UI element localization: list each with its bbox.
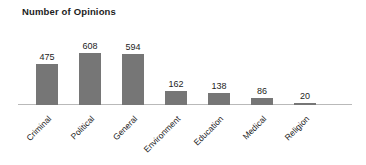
bar[interactable] — [165, 91, 187, 105]
bar[interactable] — [36, 64, 58, 105]
bar-value-label: 594 — [109, 42, 157, 52]
bar[interactable] — [122, 54, 144, 105]
bar-value-label: 608 — [66, 41, 114, 51]
bar-value-label: 475 — [23, 52, 71, 62]
plot-area: 475 Criminal 608 Political 594 General 1… — [0, 0, 366, 165]
x-tick-label-text: Political — [69, 113, 97, 141]
x-tick-label-text: General — [111, 113, 140, 142]
x-tick-label-text: Environment — [142, 113, 184, 155]
bar[interactable] — [208, 93, 230, 105]
bar-value-label: 162 — [152, 79, 200, 89]
x-tick-label-text: Criminal — [24, 113, 54, 143]
chart-screenshot: Number of Opinions 475 Criminal 608 Poli… — [0, 0, 366, 165]
bar[interactable] — [79, 53, 101, 105]
x-tick-label-text: Religion — [283, 113, 312, 142]
x-tick-label-text: Medical — [241, 113, 269, 141]
bar-value-label: 138 — [195, 81, 243, 91]
x-tick-label-text: Education — [192, 113, 227, 148]
